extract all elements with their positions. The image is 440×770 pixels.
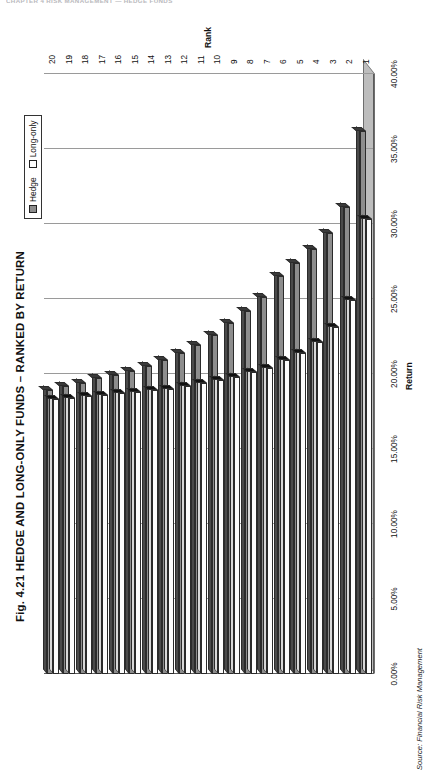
bar-end-cap xyxy=(318,229,333,233)
bar-top xyxy=(59,381,63,674)
figure-canvas: Fig. 4.21 HEDGE AND LONG-ONLY FUNDS – RA… xyxy=(0,0,440,770)
bar-top xyxy=(158,355,162,674)
rank-tick-label-19: 19 xyxy=(64,55,73,64)
legend-label-long-only: Long-only xyxy=(28,121,38,158)
rank-tick-label-15: 15 xyxy=(130,55,139,64)
bar-top xyxy=(290,258,294,674)
bar-top xyxy=(164,384,168,674)
value-tick-label: 10.00% xyxy=(390,510,399,538)
bar-longonly-rank-16 xyxy=(119,394,125,675)
legend-item-long-only: Long-only xyxy=(28,121,38,169)
bar-top xyxy=(148,385,152,674)
value-tick-label: 15.00% xyxy=(390,435,399,463)
bar-top xyxy=(191,340,195,674)
bar-top xyxy=(313,337,317,674)
bar-longonly-rank-15 xyxy=(135,392,141,674)
legend-label-hedge: Hedge xyxy=(28,177,38,202)
rank-tick-label-12: 12 xyxy=(180,55,189,64)
bar-top xyxy=(175,348,179,674)
bar-top xyxy=(323,228,327,674)
bar-end-cap xyxy=(54,382,69,386)
rank-tick-label-4: 4 xyxy=(312,59,321,64)
bar-longonly-rank-20 xyxy=(53,400,59,675)
rank-tick-label-2: 2 xyxy=(345,59,354,64)
bar-face xyxy=(251,373,257,675)
rank-tick-label-20: 20 xyxy=(48,55,57,64)
value-tick-label: 0.00% xyxy=(390,662,399,685)
bar-face xyxy=(152,391,158,675)
bar-end-cap xyxy=(153,357,168,361)
book-page: CHAPTER 4 RISK MANAGEMENT — HEDGE FUNDS … xyxy=(0,0,440,770)
bar-face xyxy=(350,301,356,675)
bar-top xyxy=(43,385,47,674)
bar-longonly-rank-1 xyxy=(366,220,372,675)
bar-face xyxy=(300,353,306,674)
bar-top xyxy=(329,322,333,674)
value-axis xyxy=(44,673,374,674)
bar-top xyxy=(263,363,267,674)
rank-tick-label-13: 13 xyxy=(163,55,172,64)
rank-tick-label-16: 16 xyxy=(114,55,123,64)
hedge-swatch xyxy=(29,205,37,213)
legend-item-hedge: Hedge xyxy=(28,177,38,213)
bar-end-cap xyxy=(302,246,317,250)
bar-end-cap xyxy=(71,379,86,383)
bar-face xyxy=(168,389,174,674)
bar-top xyxy=(214,375,218,674)
bar-longonly-rank-10 xyxy=(218,380,224,674)
bar-face xyxy=(284,361,290,675)
bar-face xyxy=(102,395,108,674)
plot-area: 0.00%5.00%10.00%15.00%20.00%25.00%30.00%… xyxy=(44,74,374,674)
rank-tick-label-5: 5 xyxy=(295,59,304,64)
bar-end-cap xyxy=(170,349,185,353)
rank-tick-label-10: 10 xyxy=(213,55,222,64)
bar-end-cap xyxy=(203,331,218,335)
bar-top xyxy=(346,295,350,674)
chart-legend: Hedge Long-only xyxy=(24,115,42,219)
rank-tick-label-3: 3 xyxy=(328,59,337,64)
bar-top xyxy=(125,366,129,674)
bar-longonly-rank-18 xyxy=(86,397,92,675)
source-note: Source: Financial Risk Management xyxy=(415,648,424,770)
bar-top xyxy=(65,393,69,674)
bar-longonly-rank-7 xyxy=(267,368,273,674)
category-axis xyxy=(373,74,374,674)
bar-top xyxy=(257,292,261,674)
bar-top xyxy=(280,355,284,674)
bar-face xyxy=(86,397,92,675)
bar-top xyxy=(197,378,201,674)
bar-end-cap xyxy=(120,367,135,371)
rank-tick-label-14: 14 xyxy=(147,55,156,64)
bar-end-cap xyxy=(252,294,267,298)
bar-top xyxy=(109,370,113,674)
bar-longonly-rank-5 xyxy=(300,353,306,674)
bar-face xyxy=(218,380,224,674)
bar-top xyxy=(76,378,80,674)
bar-end-cap xyxy=(137,363,152,367)
value-tick-label: 25.00% xyxy=(390,285,399,313)
gridline xyxy=(44,148,374,149)
bar-face xyxy=(267,368,273,674)
bar-face xyxy=(201,383,207,674)
bar-longonly-rank-9 xyxy=(234,377,240,674)
bar-end-cap xyxy=(269,273,284,277)
rank-tick-label-17: 17 xyxy=(97,55,106,64)
value-tick-label: 40.00% xyxy=(390,60,399,88)
bar-top xyxy=(296,348,300,674)
bar-face xyxy=(135,392,141,674)
bar-top xyxy=(49,394,53,674)
bar-top xyxy=(307,244,311,674)
bar-face xyxy=(119,394,125,675)
bar-face xyxy=(69,398,75,674)
bar-top xyxy=(247,367,251,674)
gridline xyxy=(44,73,374,74)
rank-tick-label-9: 9 xyxy=(229,59,238,64)
bar-end-cap xyxy=(186,342,201,346)
category-axis-label: Rank xyxy=(203,27,213,48)
bar-face xyxy=(366,220,372,675)
bar-top xyxy=(356,126,360,674)
bar-longonly-rank-12 xyxy=(185,386,191,674)
bar-top xyxy=(274,271,278,674)
bar-end-cap xyxy=(219,319,234,323)
value-axis-label: Return xyxy=(404,362,414,390)
